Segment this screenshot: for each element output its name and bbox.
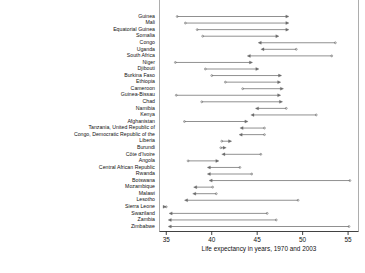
- arrow-row: [163, 205, 167, 208]
- value-2003-arrowhead: [258, 41, 261, 44]
- category-label: Equatorial Guinea: [113, 27, 155, 32]
- arrow-row: [184, 120, 249, 123]
- arrow-row: [168, 218, 277, 221]
- value-2003-arrowhead: [168, 225, 171, 228]
- arrow-row: [184, 22, 289, 25]
- arrow-row: [187, 159, 219, 162]
- category-label: Congo, Democratic Republic of the: [74, 132, 155, 137]
- x-tick-label: 40: [208, 236, 215, 243]
- value-1970-marker: [176, 16, 178, 18]
- value-2003-arrowhead: [280, 87, 283, 90]
- category-label: Guinea-Bissau: [121, 92, 155, 97]
- category-label: Chad: [143, 99, 155, 104]
- arrow-row: [196, 28, 289, 31]
- category-label: Congo: [140, 40, 155, 45]
- x-tick-label: 55: [345, 236, 352, 243]
- arrow-row: [242, 87, 284, 90]
- arrow-row: [175, 94, 281, 97]
- value-1970-marker: [251, 173, 253, 175]
- category-label: Malawi: [139, 191, 155, 196]
- value-2003-arrowhead: [222, 153, 225, 156]
- value-2003-arrowhead: [209, 179, 212, 182]
- category-label: Zambia: [138, 217, 155, 222]
- value-1970-marker: [260, 153, 262, 155]
- category-label: Burkina Faso: [124, 73, 155, 78]
- arrow-row: [211, 74, 282, 77]
- value-2003-arrowhead: [207, 166, 210, 169]
- value-2003-arrowhead: [249, 61, 252, 64]
- arrow-row: [220, 146, 226, 149]
- value-2003-arrowhead: [247, 54, 250, 57]
- category-label: Cameroon: [131, 86, 155, 91]
- arrow-row: [174, 61, 252, 64]
- arrow-row: [261, 48, 297, 51]
- category-label: Kenya: [140, 112, 155, 117]
- value-2003-arrowhead: [240, 127, 243, 130]
- category-label: Angola: [139, 158, 155, 163]
- category-label: South Africa: [127, 53, 155, 58]
- value-1970-marker: [196, 29, 198, 31]
- category-label: Central African Republic: [99, 165, 155, 170]
- value-2003-arrowhead: [278, 81, 281, 84]
- category-label: Tanzania, United Republic of: [88, 125, 155, 130]
- value-2003-arrowhead: [279, 74, 282, 77]
- value-1970-marker: [264, 134, 266, 136]
- value-2003-arrowhead: [184, 199, 187, 202]
- arrow-row: [207, 173, 253, 176]
- arrow-row: [251, 113, 317, 116]
- arrow-row: [247, 54, 333, 57]
- category-label: Namibia: [136, 106, 155, 111]
- value-1970-marker: [187, 160, 189, 162]
- category-label: Sierra Leone: [125, 204, 155, 209]
- category-label: Uganda: [137, 47, 155, 52]
- value-1970-marker: [275, 219, 277, 221]
- arrow-row: [193, 192, 218, 195]
- arrow-row: [255, 107, 287, 110]
- value-2003-arrowhead: [276, 35, 279, 38]
- value-1970-marker: [184, 121, 186, 123]
- category-label: Swaziland: [131, 211, 155, 216]
- value-1970-marker: [211, 75, 213, 77]
- value-2003-arrowhead: [168, 218, 171, 221]
- value-1970-marker: [264, 127, 266, 129]
- arrow-row: [176, 15, 289, 18]
- x-tick-label: 45: [254, 236, 261, 243]
- value-1970-marker: [295, 48, 297, 50]
- value-2003-arrowhead: [286, 28, 289, 31]
- category-label: Ethiopia: [136, 79, 155, 84]
- value-1970-marker: [221, 140, 223, 142]
- category-label: Guinea: [138, 14, 155, 19]
- arrow-row: [258, 41, 336, 44]
- value-2003-arrowhead: [169, 212, 172, 215]
- category-label: Djibouti: [138, 66, 155, 71]
- arrow-row: [207, 166, 241, 169]
- value-2003-arrowhead: [286, 22, 289, 25]
- value-2003-arrowhead: [229, 140, 232, 143]
- arrow-row: [221, 140, 232, 143]
- category-label: Botswana: [132, 178, 155, 183]
- value-2003-arrowhead: [245, 120, 248, 123]
- x-tick-label: 35: [163, 236, 170, 243]
- value-2003-arrowhead: [207, 173, 210, 176]
- category-label: Rwanda: [136, 171, 155, 176]
- category-label: Mozambique: [125, 184, 155, 189]
- value-2003-arrowhead: [239, 133, 242, 136]
- arrow-row: [239, 133, 265, 136]
- plot-area: [159, 12, 359, 231]
- arrow-row: [224, 81, 280, 84]
- arrow-row: [184, 199, 299, 202]
- value-2003-arrowhead: [278, 94, 281, 97]
- category-label: Afghanistan: [127, 119, 155, 124]
- category-label-column: GuineaMaliEquatorial GuineaSomaliaCongoU…: [0, 0, 158, 273]
- arrow-layer: [159, 12, 359, 231]
- category-label: Mali: [145, 20, 155, 25]
- x-tick-label: 50: [299, 236, 306, 243]
- arrow-row: [202, 35, 279, 38]
- value-2003-arrowhead: [255, 107, 258, 110]
- value-1970-marker: [315, 114, 317, 116]
- arrow-row: [222, 153, 262, 156]
- category-label: Zimbabwe: [131, 224, 155, 229]
- plot-border: [160, 0, 359, 232]
- life-expectancy-chart: GuineaMaliEquatorial GuineaSomaliaCongoU…: [0, 0, 365, 273]
- category-label: Burundi: [137, 145, 155, 150]
